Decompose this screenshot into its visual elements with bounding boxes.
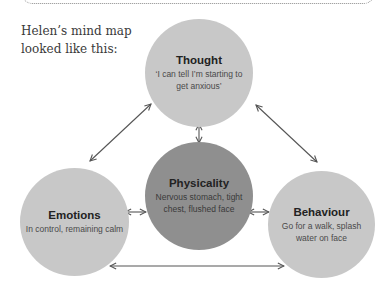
node-physicality-text-2: chest, flushed face bbox=[164, 203, 235, 215]
arrow-thought-emotions bbox=[90, 104, 151, 161]
node-behaviour: Behaviour Go for a walk, splash water on… bbox=[268, 171, 375, 278]
node-emotions-text-1: In control, remaining calm bbox=[26, 223, 123, 235]
arrow-thought-behaviour bbox=[256, 105, 317, 162]
node-behaviour-text-1: Go for a walk, splash bbox=[282, 220, 361, 232]
node-emotions: Emotions In control, remaining calm bbox=[20, 168, 129, 276]
node-behaviour-title: Behaviour bbox=[293, 206, 349, 218]
node-physicality: Physicality Nervous stomach, tight chest… bbox=[145, 142, 253, 250]
node-thought: Thought ‘I can tell I’m starting to get … bbox=[145, 19, 253, 127]
node-physicality-title: Physicality bbox=[169, 177, 229, 189]
node-thought-title: Thought bbox=[176, 54, 222, 66]
node-behaviour-text-2: water on face bbox=[296, 232, 347, 244]
node-emotions-title: Emotions bbox=[48, 209, 100, 221]
node-thought-text-2: get anxious’ bbox=[176, 80, 221, 92]
node-physicality-text-1: Nervous stomach, tight bbox=[156, 191, 243, 203]
node-thought-text-1: ‘I can tell I’m starting to bbox=[156, 68, 243, 80]
